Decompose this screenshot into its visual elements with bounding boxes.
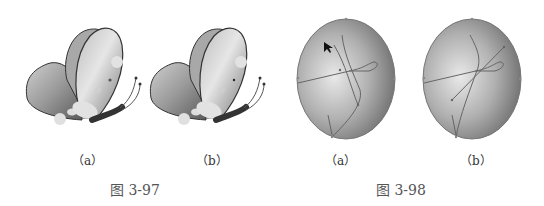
panel-label: （b）	[196, 151, 228, 168]
panel-label: （a）	[325, 151, 356, 168]
egg-figure-b	[420, 15, 524, 140]
panel-label: （a）	[72, 151, 103, 168]
egg-illustration	[294, 15, 398, 140]
butterfly-figure-a	[22, 20, 147, 145]
butterfly-illustration	[146, 20, 271, 145]
egg-figure-a	[294, 15, 398, 140]
butterfly-illustration	[22, 20, 147, 145]
egg-illustration	[420, 15, 524, 140]
figure-title: 图 3-97	[110, 179, 160, 199]
panel-label: （b）	[460, 151, 492, 168]
butterfly-figure-b	[146, 20, 271, 145]
figure-title: 图 3-98	[376, 179, 426, 199]
